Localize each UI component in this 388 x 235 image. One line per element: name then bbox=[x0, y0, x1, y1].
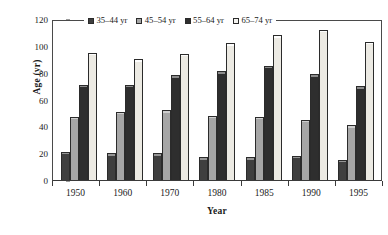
bar-group bbox=[338, 21, 374, 180]
bar bbox=[153, 153, 162, 180]
y-axis-tick-label: 120 bbox=[18, 16, 48, 25]
x-axis-tick-label: 1970 bbox=[148, 187, 192, 201]
legend-swatch-icon bbox=[136, 18, 142, 24]
bar-group bbox=[107, 21, 143, 180]
y-axis-tick-label: 60 bbox=[18, 96, 48, 105]
y-axis-tick-label: 0 bbox=[18, 177, 48, 186]
legend-label: 65–74 yr bbox=[241, 16, 272, 25]
chart-legend: 35–44 yr45–54 yr55–64 yr65–74 yr bbox=[84, 14, 276, 27]
x-axis-tick-mark bbox=[241, 181, 242, 186]
bar bbox=[70, 117, 79, 180]
y-axis-tick-label: 80 bbox=[18, 69, 48, 78]
x-axis-tick-marks bbox=[52, 181, 382, 186]
bar-chart: Age (yr) 020406080100120 195019601970198… bbox=[0, 0, 388, 235]
bar bbox=[356, 86, 365, 180]
bar bbox=[338, 160, 347, 180]
y-axis-tick-label: 100 bbox=[18, 42, 48, 51]
bar bbox=[116, 112, 125, 180]
legend-item[interactable]: 65–74 yr bbox=[233, 16, 272, 25]
x-axis-tick-label: 1960 bbox=[101, 187, 145, 201]
bar bbox=[171, 75, 180, 180]
bar-group bbox=[292, 21, 328, 180]
x-axis-tick-mark bbox=[146, 181, 147, 186]
bar bbox=[208, 116, 217, 180]
legend-item[interactable]: 55–64 yr bbox=[185, 16, 224, 25]
bar bbox=[246, 157, 255, 180]
bars-layer bbox=[53, 21, 381, 180]
x-axis-tick-mark bbox=[52, 181, 53, 186]
bar bbox=[180, 54, 189, 180]
y-axis-tick-label: 20 bbox=[18, 150, 48, 159]
bar bbox=[79, 85, 88, 180]
plot-area bbox=[52, 20, 382, 181]
x-axis-tick-label: 1990 bbox=[289, 187, 333, 201]
y-axis-tick-label: 40 bbox=[18, 123, 48, 132]
bar bbox=[226, 43, 235, 180]
bar bbox=[199, 157, 208, 180]
legend-label: 55–64 yr bbox=[193, 16, 224, 25]
bar bbox=[217, 71, 226, 180]
bar bbox=[319, 30, 328, 180]
x-axis-tick-mark bbox=[193, 181, 194, 186]
bar-group bbox=[61, 21, 97, 180]
bar bbox=[134, 59, 143, 180]
bar-group bbox=[153, 21, 189, 180]
bar bbox=[61, 152, 70, 180]
bar-group bbox=[246, 21, 282, 180]
x-axis-title: Year bbox=[52, 206, 382, 216]
legend-item[interactable]: 35–44 yr bbox=[88, 16, 127, 25]
x-axis-tick-labels: 1950196019701980198519901995 bbox=[52, 187, 382, 201]
x-axis-tick-label: 1985 bbox=[242, 187, 286, 201]
bar bbox=[162, 110, 171, 180]
x-axis-tick-label: 1950 bbox=[54, 187, 98, 201]
bar bbox=[255, 117, 264, 180]
bar bbox=[310, 74, 319, 180]
bar bbox=[88, 53, 97, 180]
bar bbox=[347, 125, 356, 180]
legend-swatch-icon bbox=[233, 18, 239, 24]
y-axis-tick-labels: 020406080100120 bbox=[18, 15, 48, 181]
bar-group bbox=[199, 21, 235, 180]
x-axis-tick-label: 1995 bbox=[336, 187, 380, 201]
bar bbox=[365, 42, 374, 180]
legend-label: 35–44 yr bbox=[97, 16, 128, 25]
bar bbox=[292, 156, 301, 180]
legend-item[interactable]: 45–54 yr bbox=[136, 16, 175, 25]
x-axis-tick-mark bbox=[288, 181, 289, 186]
x-axis-tick-mark bbox=[335, 181, 336, 186]
legend-swatch-icon bbox=[185, 18, 191, 24]
bar bbox=[264, 66, 273, 180]
x-axis-tick-label: 1980 bbox=[195, 187, 239, 201]
legend-label: 45–54 yr bbox=[145, 16, 176, 25]
x-axis-tick-mark bbox=[99, 181, 100, 186]
bar bbox=[107, 153, 116, 180]
bar bbox=[273, 35, 282, 180]
legend-swatch-icon bbox=[88, 18, 94, 24]
bar bbox=[301, 120, 310, 180]
bar bbox=[125, 85, 134, 180]
x-axis-tick-mark bbox=[382, 181, 383, 186]
